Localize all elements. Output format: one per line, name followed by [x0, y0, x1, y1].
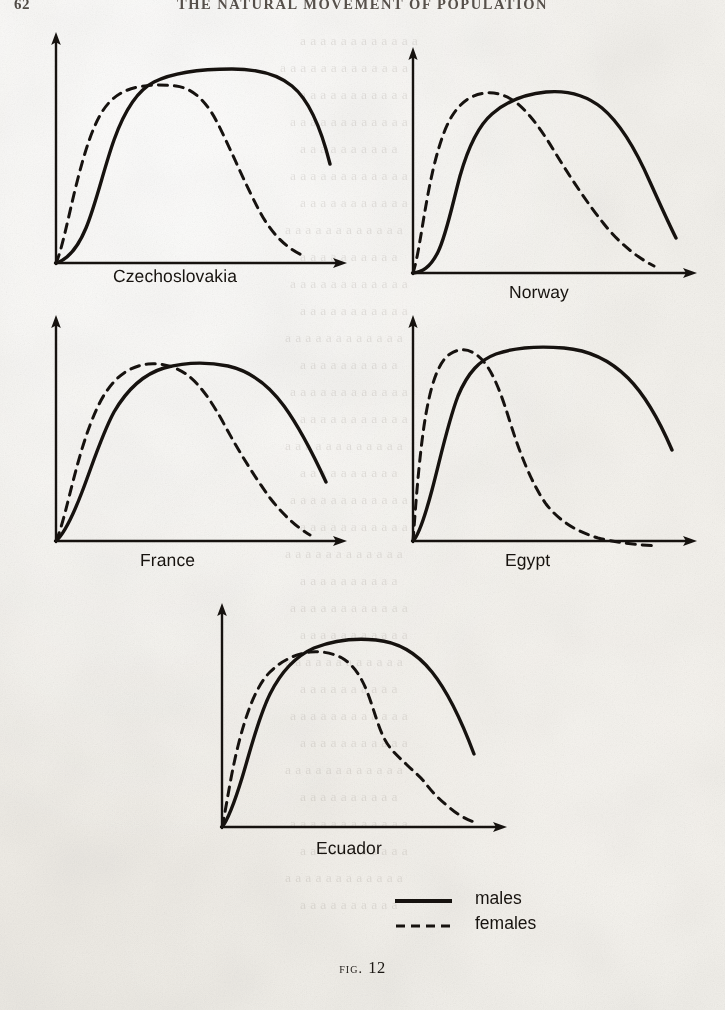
series-males-norway — [413, 92, 676, 273]
axes-czechoslovakia — [51, 32, 347, 268]
series-females-czechoslovakia — [56, 85, 304, 263]
chart-ecuador — [208, 598, 508, 834]
series-females-egypt — [413, 350, 658, 546]
chart-label-france: France — [140, 550, 195, 571]
axes-norway — [408, 47, 697, 278]
figure-12: Czechoslovakia Norway France — [0, 0, 725, 1010]
legend-label-females: females — [475, 913, 536, 934]
chart-czechoslovakia — [42, 28, 352, 270]
caption-prefix: Fig. — [339, 961, 363, 976]
chart-label-ecuador: Ecuador — [316, 838, 382, 859]
legend-entry-females: females — [395, 914, 625, 939]
axes-egypt — [408, 315, 697, 546]
legend-entry-males: males — [395, 889, 625, 914]
legend-swatch-solid — [395, 898, 452, 904]
legend-swatch-dashed — [395, 923, 452, 929]
legend-label-males: males — [475, 888, 522, 909]
figure-caption: Fig.12 — [0, 958, 725, 978]
series-males-ecuador — [222, 639, 474, 827]
chart-label-czechoslovakia: Czechoslovakia — [113, 266, 237, 287]
chart-norway — [400, 42, 700, 280]
axes-france — [51, 315, 347, 546]
chart-label-norway: Norway — [509, 282, 569, 303]
series-males-egypt — [413, 347, 672, 541]
chart-france — [42, 310, 352, 548]
series-females-norway — [413, 93, 654, 273]
chart-label-egypt: Egypt — [505, 550, 550, 571]
chart-egypt — [400, 310, 700, 548]
caption-number: 12 — [368, 958, 386, 977]
figure-legend: males females — [395, 889, 625, 939]
series-males-czechoslovakia — [56, 69, 330, 263]
